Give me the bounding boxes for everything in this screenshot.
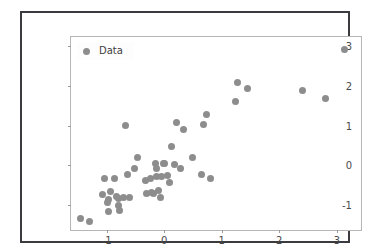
x-tick-label: 2 <box>276 235 282 246</box>
x-tick-mark <box>107 230 108 233</box>
data-point <box>116 207 123 214</box>
data-point <box>153 165 160 172</box>
data-point <box>299 87 306 94</box>
data-point <box>244 85 251 92</box>
data-point <box>164 172 171 179</box>
data-point <box>322 95 329 102</box>
legend-label: Data <box>99 46 123 56</box>
x-tick-mark <box>279 230 280 233</box>
data-point <box>104 199 111 206</box>
data-point <box>77 215 84 222</box>
x-tick-label: 0 <box>161 235 167 246</box>
legend-marker-icon <box>83 48 90 55</box>
data-point <box>124 171 131 178</box>
data-point <box>161 160 168 167</box>
legend: Data <box>77 42 134 60</box>
data-point <box>122 122 129 129</box>
data-point <box>234 79 241 86</box>
figure-frame: -10123 -10123 Data <box>20 11 350 243</box>
data-point <box>166 179 173 186</box>
figure: -10123 -10123 Data <box>0 0 365 252</box>
data-point <box>173 119 180 126</box>
data-point <box>180 126 187 133</box>
data-points-layer <box>71 37 361 230</box>
data-point <box>341 46 348 53</box>
data-point <box>200 121 207 128</box>
data-point <box>207 175 214 182</box>
data-point <box>111 175 118 182</box>
scatter-plot-axes: -10123 -10123 Data <box>70 36 362 231</box>
x-tick-mark <box>337 230 338 233</box>
x-tick-label: 1 <box>219 235 225 246</box>
data-point <box>177 165 184 172</box>
data-point <box>131 165 138 172</box>
data-point <box>189 154 196 161</box>
data-point <box>198 171 205 178</box>
data-point <box>86 218 93 225</box>
x-tick-mark <box>222 230 223 233</box>
data-point <box>101 175 108 182</box>
data-point <box>168 143 175 150</box>
data-point <box>157 194 164 201</box>
data-point <box>105 208 112 215</box>
data-point <box>134 154 141 161</box>
x-tick-label: 3 <box>334 235 340 246</box>
data-point <box>126 194 133 201</box>
x-tick-label: -1 <box>102 235 112 246</box>
data-point <box>203 111 210 118</box>
data-point <box>232 98 239 105</box>
x-tick-mark <box>164 230 165 233</box>
